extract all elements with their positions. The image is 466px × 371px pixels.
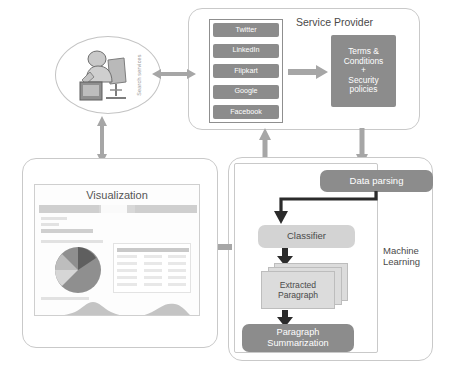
table-row [117,283,137,286]
user-node-side-text: Search services [136,46,142,104]
dashboard-filter-row-1 [41,223,59,226]
user-at-computer-icon [72,46,134,104]
table-row [144,283,162,286]
table-row [144,262,162,265]
diagram-canvas: Service Provider Twitter LinkedIn Flipka… [0,0,466,371]
user-to-provider-arrow [152,68,196,80]
terms-conditions-box: Terms & Conditions + Security policies [331,35,396,107]
social-sources-list: Twitter LinkedIn Flipkart Google Faceboo… [209,19,283,123]
table-row [117,269,137,272]
table-row [117,276,137,279]
table-header-row [117,248,189,252]
paragraph-sheet-front: Extracted Paragraph [261,271,335,309]
source-item-flipkart[interactable]: Flipkart [213,64,279,78]
table-row [168,269,186,272]
toolbar-segment-active[interactable] [101,205,127,213]
density-area-charts [41,301,195,316]
table-row [168,276,186,279]
step-classifier: Classifier [258,225,355,248]
distribution-pie-chart [51,245,105,295]
parsing-to-classifier-arrow [268,191,384,226]
step-paragraph-summarization: Paragraph Summarization [242,324,354,352]
user-to-visualization-arrow [95,116,109,164]
source-item-linkedin[interactable]: LinkedIn [213,44,279,58]
table-row [144,276,162,279]
visualization-title: Visualization [35,189,199,201]
toolbar-segment-left[interactable] [39,205,99,213]
dashboard-filter-input[interactable] [41,229,93,233]
toolbar-segment-right[interactable] [135,205,197,213]
dashboard-filter-label [41,217,67,220]
table-row [168,255,186,258]
source-item-google[interactable]: Google [213,85,279,99]
step-data-parsing: Data parsing [320,170,433,192]
service-provider-title: Service Provider [296,16,373,29]
sources-to-policies-arrow [288,65,328,79]
visualization-dashboard: Visualization [34,184,200,316]
table-row [117,255,137,258]
table-row [168,262,186,265]
dashboard-toolbar[interactable] [39,205,197,213]
table-row [117,262,137,265]
table-row [168,283,186,286]
table-row [144,255,162,258]
machine-learning-title: Machine Learning [383,245,420,268]
area-chart-caption [41,297,89,300]
summary-data-table [113,243,191,293]
source-item-facebook[interactable]: Facebook [213,105,279,119]
table-row [144,269,162,272]
source-item-twitter[interactable]: Twitter [213,23,279,37]
dashboard-filter-row-2 [41,240,103,243]
step-extracted-paragraph: Extracted Paragraph [258,263,358,311]
